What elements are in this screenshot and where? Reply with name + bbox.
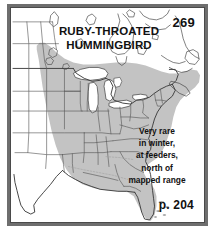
plate-number-label: 269: [172, 15, 195, 30]
island-dot-5: [154, 216, 157, 217]
map-frame: RUBY-THROATED HUMMINGBIRD 269 Very rare …: [7, 4, 208, 226]
page-reference-label: p. 204: [159, 198, 194, 212]
lake-michigan: [88, 82, 98, 113]
field-guide-range-map-plate: RUBY-THROATED HUMMINGBIRD 269 Very rare …: [0, 0, 215, 231]
island-dot-4: [163, 214, 167, 216]
species-name-label: RUBY-THROATED HUMMINGBIRD: [49, 24, 169, 52]
winter-range-note: Very rare in winter, at feeders, north o…: [116, 125, 198, 186]
map-frame-inner: RUBY-THROATED HUMMINGBIRD 269 Very rare …: [10, 7, 205, 223]
